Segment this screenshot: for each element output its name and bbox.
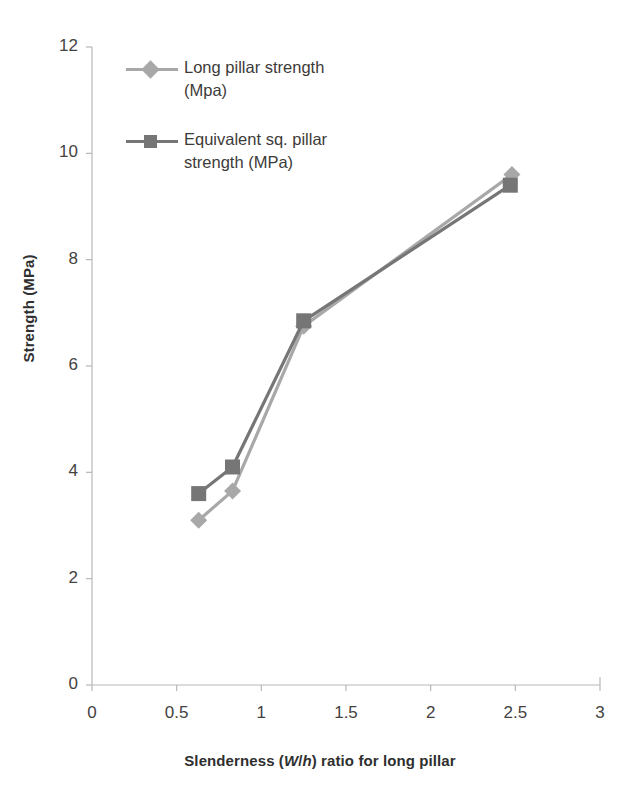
chart-legend: Long pillar strength (Mpa)Equivalent sq.… [126, 56, 341, 200]
x-axis-title: Slenderness (W/h) ratio for long pillar [0, 752, 640, 769]
legend-label: Equivalent sq. pillar strength (MPa) [184, 128, 341, 174]
y-axis-title: Strength (MPa) [20, 219, 37, 399]
series-line-2 [199, 185, 511, 493]
legend-label: Long pillar strength (Mpa) [184, 56, 341, 102]
y-tick-label: 8 [32, 249, 78, 269]
y-tick-label: 4 [32, 461, 78, 481]
chart-container: 024681012 00.511.522.53 Strength (MPa) S… [0, 0, 640, 808]
x-tick-label: 2 [401, 703, 461, 723]
y-tick-label: 2 [32, 568, 78, 588]
data-series [190, 166, 520, 529]
x-tick-label: 0.5 [147, 703, 207, 723]
legend-swatch [126, 61, 178, 77]
series-line-1 [199, 175, 512, 521]
y-tick-label: 10 [32, 142, 78, 162]
legend-entry[interactable]: Equivalent sq. pillar strength (MPa) [126, 128, 341, 174]
x-tick-label: 3 [570, 703, 630, 723]
legend-marker-square-icon [144, 135, 157, 148]
y-tick-label: 6 [32, 355, 78, 375]
legend-entry[interactable]: Long pillar strength (Mpa) [126, 56, 341, 102]
series-2-marker-square [191, 486, 206, 501]
series-2-marker-square [296, 313, 311, 328]
x-tick-label: 0 [62, 703, 122, 723]
y-tick-label: 0 [32, 674, 78, 694]
series-2-marker-square [225, 460, 240, 475]
x-tick-label: 2.5 [485, 703, 545, 723]
legend-swatch [126, 133, 178, 149]
x-tick-label: 1 [231, 703, 291, 723]
y-tick-label: 12 [32, 36, 78, 56]
series-2-marker-square [503, 178, 518, 193]
legend-marker-diamond-icon [141, 60, 159, 78]
x-tick-label: 1.5 [316, 703, 376, 723]
